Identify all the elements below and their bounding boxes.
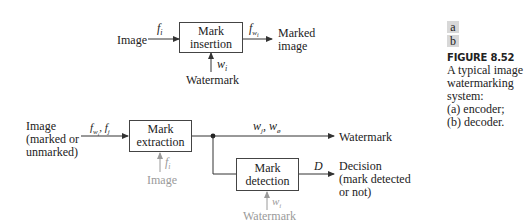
input-label-line2: (marked or (26, 132, 79, 146)
signal-subscript: i (160, 28, 162, 37)
figure-title: FIGURE 8.52 (447, 52, 514, 63)
caption-line: (b) decoder. (447, 116, 523, 129)
block-label-line2: insertion (190, 37, 232, 51)
output-label-line1: Marked (278, 26, 315, 40)
encoder-watermark-label: Watermark (186, 74, 239, 86)
block-label-line2: detection (246, 174, 290, 188)
detection-output-signal: D (314, 160, 323, 172)
junction-to-detection-wire (213, 136, 236, 174)
input-label-line1: Image (26, 119, 56, 133)
decision-label: Decision (mark detected or not) (339, 160, 411, 199)
signal-base: w (217, 57, 225, 71)
encoder-input-signal: fi (157, 22, 163, 39)
encoder-output-signal: fwi (249, 22, 259, 42)
output-label-line2: image (278, 39, 307, 53)
mark-insertion-block: Markinsertion (179, 22, 243, 53)
block-label-line1: Mark (198, 24, 224, 38)
extracted-signal: wj, wø (253, 120, 280, 137)
panel-tag-b: b (447, 35, 459, 47)
decision-line1: Decision (339, 159, 382, 173)
panel-tag-a: a (447, 21, 459, 33)
decoder-input-label: Image (marked or unmarked) (26, 120, 79, 159)
decoder-input-signal: fwi, fj (90, 121, 110, 142)
mark-extraction-block: Markextraction (129, 120, 192, 152)
signal-subscript: i (168, 162, 170, 171)
watermark-output-label: Watermark (339, 131, 392, 143)
input-label-line3: unmarked) (26, 145, 78, 159)
mark-detection-block: Markdetection (236, 158, 299, 191)
detection-aux-label: Watermark (243, 210, 296, 222)
extraction-aux-signal: fi (165, 156, 171, 173)
decision-line2: (mark detected (339, 172, 411, 186)
encoder-input-label: Image (117, 34, 147, 46)
figure-caption: A typical image watermarking system: (a)… (447, 64, 523, 129)
encoder-output-label: Markedimage (278, 27, 315, 53)
block-label-line2: extraction (137, 135, 185, 149)
block-label-line1: Mark (254, 161, 280, 175)
decision-line3: or not) (339, 185, 371, 199)
signal-subscript: wi (252, 29, 258, 37)
extraction-aux-label: Image (147, 174, 177, 186)
block-label-line1: Mark (147, 122, 173, 136)
